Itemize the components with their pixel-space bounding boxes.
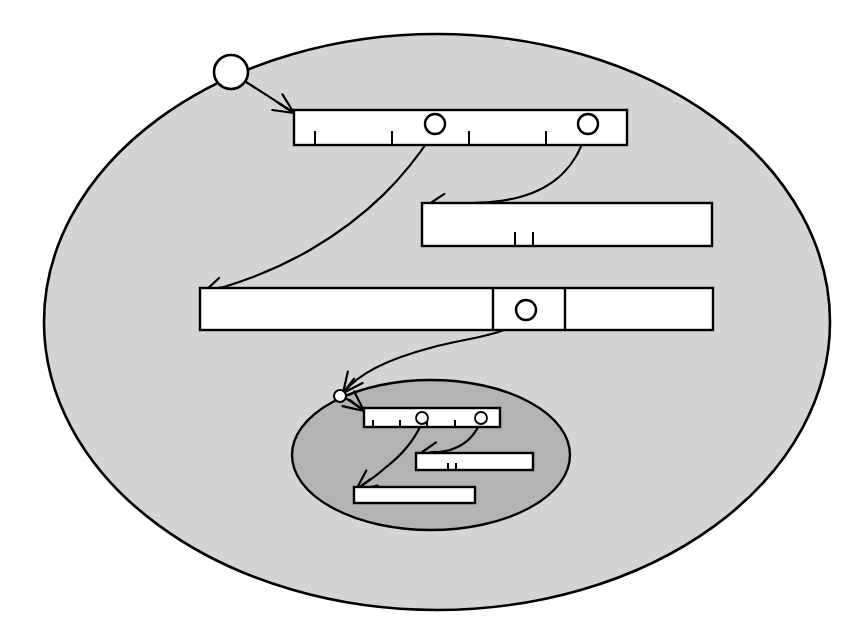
outer-bar-2-body[interactable] xyxy=(422,203,712,246)
outer-bar-3[interactable] xyxy=(200,288,713,330)
inner-entry-point-circle[interactable] xyxy=(334,390,346,402)
inner-bar-2-body[interactable] xyxy=(416,453,533,470)
outer-bar-3-port-a[interactable] xyxy=(516,300,536,320)
inner-bar-1-port-a[interactable] xyxy=(416,412,428,424)
inner-bar-3-body[interactable] xyxy=(354,487,475,503)
inner-bar-2[interactable] xyxy=(416,453,533,470)
outer-bar-3-body[interactable] xyxy=(200,288,713,330)
outer-bar-1-body[interactable] xyxy=(294,110,627,145)
inner-bar-3[interactable] xyxy=(354,487,475,503)
nested-activation-trace-diagram xyxy=(0,0,866,634)
inner-bar-1[interactable] xyxy=(364,408,500,427)
outer-bar-1-port-b[interactable] xyxy=(578,114,598,134)
outer-bar-2[interactable] xyxy=(422,203,712,246)
diagram-canvas xyxy=(0,0,866,634)
outer-bar-1[interactable] xyxy=(294,110,627,145)
inner-bar-1-port-b[interactable] xyxy=(475,412,487,424)
outer-bar-1-port-a[interactable] xyxy=(425,114,445,134)
entry-point-circle[interactable] xyxy=(214,55,248,89)
